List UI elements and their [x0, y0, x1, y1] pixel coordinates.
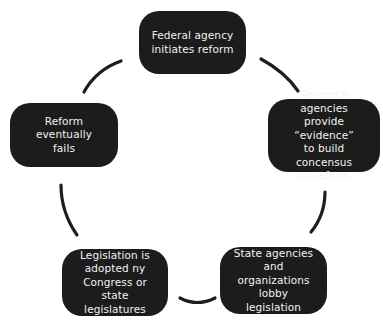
node-reform-eventually-fails: Reform eventually fails — [10, 103, 118, 167]
node-label: Legislation is adopted ny Congress or st… — [68, 249, 162, 316]
node-label: Research agencies provide “evidence” to … — [274, 88, 374, 182]
node-label: State agencies and organizations lobby l… — [226, 247, 321, 314]
node-state-agencies-lobby-legislation: State agencies and organizations lobby l… — [220, 247, 327, 314]
connector-arc-3-4 — [180, 298, 215, 303]
node-label: Federal agency initiates reform — [152, 29, 234, 56]
connector-arc-4-5 — [61, 185, 77, 235]
node-research-agencies-provide-evidence: Research agencies provide “evidence” to … — [268, 99, 380, 172]
connector-arc-5-1 — [84, 61, 121, 92]
node-legislation-adopted: Legislation is adopted ny Congress or st… — [62, 249, 168, 316]
connector-arc-2-3 — [311, 192, 325, 232]
node-federal-agency-initiates-reform: Federal agency initiates reform — [139, 11, 246, 74]
connector-arc-1-2 — [261, 59, 298, 91]
node-label: Reform eventually fails — [16, 115, 112, 155]
